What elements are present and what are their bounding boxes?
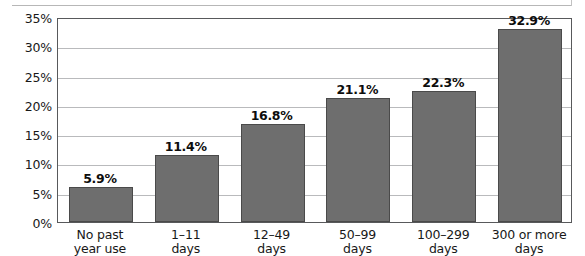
page-scan-rule [12,5,572,6]
bar[interactable] [412,91,476,222]
x-axis-category-line-2: days [143,242,229,256]
x-axis-category-line-2: days [315,242,401,256]
x-axis-category-line-1: 12–49 [253,227,290,242]
bar[interactable] [155,155,219,222]
bar[interactable] [241,124,305,222]
bar[interactable] [69,187,133,222]
x-axis-category-label: 100–299days [400,228,486,256]
y-axis-tick-label: 20% [6,98,52,113]
gridline [58,107,571,108]
chart-screenshot: 0%5%10%15%20%25%30%35% 5.9%11.4%16.8%21.… [0,0,585,256]
gridline [58,165,571,166]
x-axis-category-label: No pastyear use [57,228,143,256]
page-scan-rule-cap [571,0,572,6]
bar-value-label: 22.3% [400,75,486,90]
y-axis-tick-label: 5% [6,186,52,201]
gridline [58,136,571,137]
x-axis-category-label: 300 or moredays [486,228,572,256]
bar[interactable] [326,98,390,222]
x-axis-category-line-2: days [400,242,486,256]
bar-value-label: 5.9% [57,171,143,186]
y-axis-tick-label: 15% [6,128,52,143]
y-axis-tick-label: 35% [6,11,52,26]
x-axis-category-line-1: 50–99 [339,227,376,242]
x-axis-category-line-2: days [229,242,315,256]
y-axis-tick-label: 25% [6,69,52,84]
bar-value-label: 16.8% [229,108,315,123]
x-axis-category-label: 12–49days [229,228,315,256]
x-axis-category-line-2: days [486,242,572,256]
bar-value-label: 21.1% [315,82,401,97]
y-axis-tick-label: 10% [6,157,52,172]
y-axis-tick-label: 0% [6,216,52,231]
y-axis-tick-label: 30% [6,40,52,55]
bar-value-label: 11.4% [143,139,229,154]
bar-value-label: 32.9% [486,13,572,28]
x-axis-category-label: 1–11days [143,228,229,256]
gridline [58,78,571,79]
gridline [58,48,571,49]
plot-area [57,18,572,223]
x-axis-category-line-2: year use [57,242,143,256]
x-axis-category-line-1: 300 or more [492,227,567,242]
x-axis-category-line-1: No past [77,227,124,242]
x-axis-category-line-1: 100–299 [417,227,470,242]
x-axis-category-line-1: 1–11 [171,227,200,242]
x-axis-category-label: 50–99days [315,228,401,256]
bar[interactable] [498,29,562,222]
gridline [58,195,571,196]
